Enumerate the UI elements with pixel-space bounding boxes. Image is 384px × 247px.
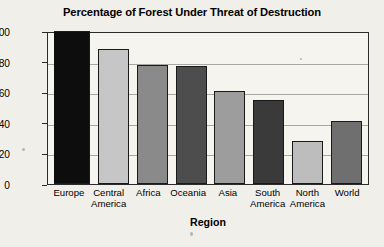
y-tick-label: 0 (0, 180, 10, 191)
bar (98, 49, 129, 184)
bar (214, 91, 245, 184)
plot-area (47, 32, 369, 185)
paper-speck (300, 58, 302, 60)
y-tick-label: 80 (0, 57, 10, 68)
x-tick-label: Oceania (169, 188, 207, 209)
paper-speck (22, 148, 25, 151)
bar (253, 100, 284, 184)
x-axis-title: Region (47, 216, 369, 228)
x-tick-label: Asia (209, 188, 247, 209)
x-tick-label: Europe (50, 188, 88, 209)
bar-series (48, 33, 368, 184)
x-tick-label: World (328, 188, 366, 209)
paper-speck (190, 232, 193, 236)
x-tick-label: CentralAmerica (90, 188, 128, 209)
bar (137, 65, 168, 184)
y-tick-label: 40 (0, 118, 10, 129)
bar (176, 66, 207, 184)
x-tick-label: SouthAmerica (249, 188, 287, 209)
bar (331, 121, 362, 184)
y-tick-label: 100 (0, 27, 10, 38)
bar (292, 141, 323, 184)
x-tick-label: Africa (129, 188, 167, 209)
x-axis-ticks: EuropeCentralAmericaAfricaOceaniaAsiaSou… (47, 188, 369, 209)
x-tick-label: NorthAmerica (288, 188, 326, 209)
bar (54, 31, 90, 184)
y-tick-label: 20 (0, 149, 10, 160)
chart-title: Percentage of Forest Under Threat of Des… (0, 6, 384, 18)
chart-figure: Percentage of Forest Under Threat of Des… (0, 0, 384, 247)
y-tick-label: 60 (0, 88, 10, 99)
